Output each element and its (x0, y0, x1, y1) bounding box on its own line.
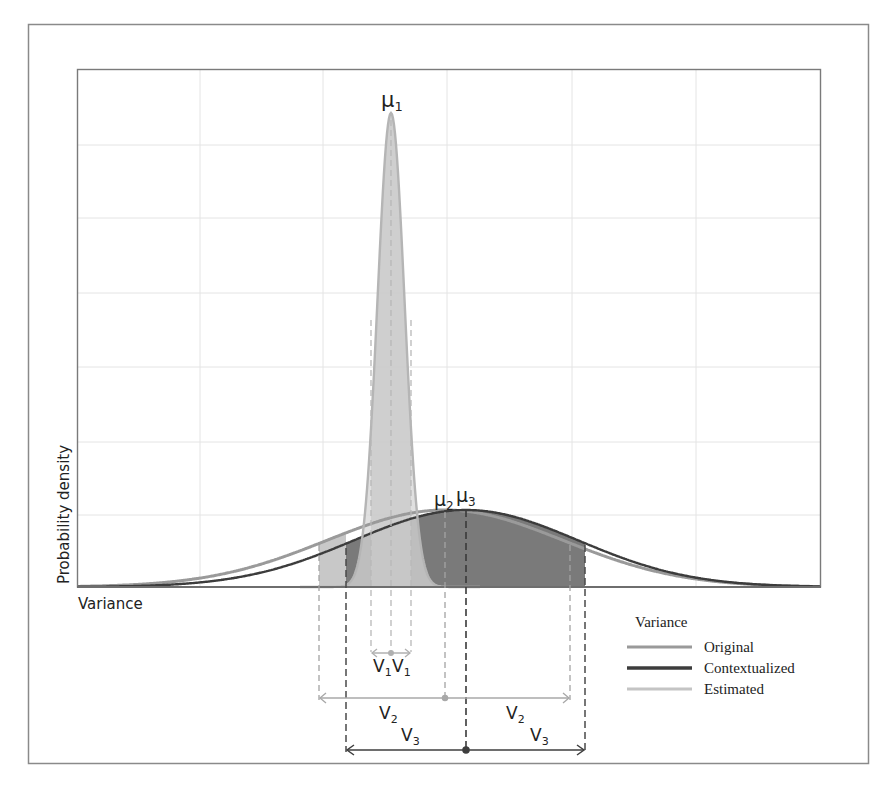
legend-label-original: Original (704, 639, 754, 655)
mu3-label: μ3 (456, 484, 476, 509)
v3-left-label: V3 (401, 725, 420, 748)
v2-left-label: V2 (379, 703, 398, 726)
legend-label-estimated: Estimated (704, 681, 764, 697)
mu1-label: μ1 (381, 88, 403, 114)
x-axis-label: Variance (78, 595, 143, 613)
distribution-fills (319, 113, 585, 587)
mu2-label: μ2 (434, 488, 454, 513)
legend: Variance Original Contextualized Estimat… (627, 614, 795, 697)
v3-right-label: V3 (530, 725, 549, 748)
legend-label-contextualized: Contextualized (704, 660, 795, 676)
v2-right-label: V2 (506, 703, 525, 726)
figure: μ1 μ2 μ3 V1 V1 V2 V2 V3 V3 Probability d… (0, 0, 891, 787)
v1-right-label: V1 (392, 656, 411, 679)
legend-title: Variance (635, 614, 688, 630)
y-axis-label: Probability density (55, 445, 73, 584)
v1-left-label: V1 (373, 656, 392, 679)
dashed-guides (319, 120, 585, 752)
